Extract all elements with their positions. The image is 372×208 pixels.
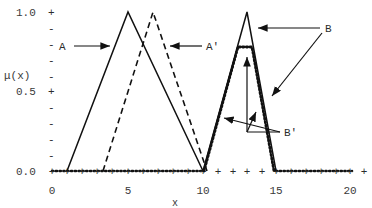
label-a: A: [59, 41, 66, 53]
x-tick-20: +: [347, 166, 354, 178]
y-tick-major-1: +: [48, 7, 55, 19]
x-tick: +: [303, 166, 310, 178]
x-tick-5: +: [125, 166, 132, 178]
x-tick: +: [94, 166, 101, 178]
y-tick-major-05: +: [48, 86, 55, 98]
x-tick: +: [109, 166, 116, 178]
x-tick-label-5: 5: [125, 185, 132, 197]
y-axis-title: μ(x): [4, 70, 30, 82]
curve-b-prime: [204, 47, 274, 171]
annotation-a: A: [59, 41, 110, 53]
x-tick: +: [259, 166, 266, 178]
label-b: B: [325, 23, 332, 35]
x-tick-label-20: 20: [343, 185, 356, 197]
y-tick-minor: -: [48, 55, 55, 67]
y-tick-label-1: 1.0: [16, 7, 36, 19]
y-tick-minor: -: [48, 134, 55, 146]
x-tick-label-0: 0: [49, 185, 56, 197]
x-axis-ticks: + + + + + + + + + + + + + + + + + + + + …: [49, 166, 368, 178]
curve-a: [67, 12, 203, 171]
x-tick: +: [170, 166, 177, 178]
y-axis-ticks: + - - - - + - - - -: [48, 7, 55, 162]
y-tick-minor: -: [48, 102, 55, 114]
x-tick: +: [288, 166, 295, 178]
x-tick: +: [140, 166, 147, 178]
x-tick: +: [79, 166, 86, 178]
x-tick-0: +: [49, 166, 56, 178]
x-tick: +: [64, 166, 71, 178]
x-tick: +: [318, 166, 325, 178]
y-tick-minor: -: [48, 23, 55, 35]
x-tick-end: +: [361, 166, 368, 178]
x-tick: +: [215, 166, 222, 178]
y-tick-minor: -: [48, 118, 55, 130]
y-tick-minor: -: [48, 150, 55, 162]
fuzzy-membership-plot: + - - - - + - - - - 1.0 0.5 0.0 μ(x) + +…: [0, 0, 372, 208]
label-b-prime: B': [284, 127, 297, 139]
x-tick: +: [333, 166, 340, 178]
x-tick-label-10: 10: [196, 185, 209, 197]
x-tick: +: [230, 166, 237, 178]
y-tick-label-0: 0.0: [16, 166, 36, 178]
y-tick-minor: -: [48, 39, 55, 51]
y-tick-minor: -: [48, 71, 55, 83]
annotation-b: B: [258, 23, 332, 96]
x-tick: +: [185, 166, 192, 178]
label-a-prime: A': [206, 41, 219, 53]
x-tick: +: [155, 166, 162, 178]
x-tick-label-15: 15: [269, 185, 282, 197]
x-tick: +: [244, 166, 251, 178]
curve-b: [203, 12, 276, 171]
x-axis-title: x: [172, 198, 178, 208]
y-tick-label-05: 0.5: [16, 86, 36, 98]
annotation-a-prime: A': [170, 41, 219, 53]
